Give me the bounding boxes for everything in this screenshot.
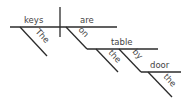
sentence-diagram: keys The are on table the by door the [0, 0, 188, 102]
object-2-modifier-word: the [162, 72, 179, 89]
subject-word: keys [24, 15, 44, 25]
subject-modifier-word: The [33, 26, 52, 45]
object-1-word: table [111, 37, 133, 47]
object-2-word: door [150, 60, 170, 70]
verb-word: are [80, 15, 94, 25]
